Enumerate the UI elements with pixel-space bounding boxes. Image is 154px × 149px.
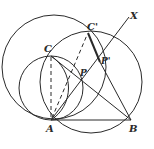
label-p: P xyxy=(79,68,87,78)
segment-cprime-pprime xyxy=(88,33,100,62)
segment-cb xyxy=(51,56,131,120)
label-x: X xyxy=(129,10,139,21)
label-b: B xyxy=(128,123,137,134)
label-c: C xyxy=(44,43,52,54)
label-p-prime: P' xyxy=(100,56,111,66)
geometry-diagram: A B C C' P P' X xyxy=(0,0,154,149)
label-a: A xyxy=(45,123,54,134)
segment-pprime-b xyxy=(100,62,131,120)
circle-through-a-b-c-cprime xyxy=(40,31,142,133)
arc-through-a-c-pprime xyxy=(51,56,69,120)
label-c-prime: C' xyxy=(87,21,98,32)
